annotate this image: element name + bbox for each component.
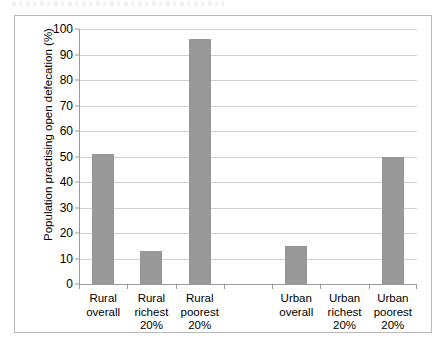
x-category-label-line: Rural — [176, 292, 224, 306]
x-category-label-line: 20% — [176, 319, 224, 333]
y-tick-label-100: 100 — [53, 23, 73, 35]
x-category-6: Urbanpoorest20% — [369, 284, 417, 346]
y-tick-label-90: 90 — [60, 49, 73, 61]
y-tick-label-50: 50 — [60, 151, 73, 163]
y-tick-label-0: 0 — [66, 278, 73, 290]
x-tick-mark — [369, 284, 370, 289]
x-category-2: Ruralpoorest20% — [176, 284, 224, 346]
x-category-label-line: richest — [127, 306, 175, 320]
bar-slot-1 — [127, 29, 175, 284]
x-category-label-line: Urban — [272, 292, 320, 306]
x-tick-mark — [224, 284, 225, 289]
x-tick-mark-end — [416, 284, 417, 289]
x-category-label-line: poorest — [176, 306, 224, 320]
bar-slot-2 — [176, 29, 224, 284]
chart-frame: Population practising open defecation (%… — [14, 15, 432, 333]
bar — [92, 154, 114, 284]
y-tick-label-80: 80 — [60, 74, 73, 86]
x-category-label-line: 20% — [369, 319, 417, 333]
x-category-5: Urbanrichest20% — [320, 284, 368, 346]
y-tick-label-10: 10 — [60, 253, 73, 265]
x-category-1: Ruralrichest20% — [127, 284, 175, 346]
x-category-label-line: Urban — [369, 292, 417, 306]
x-tick-mark — [272, 284, 273, 289]
x-category-0: Ruraloverall — [79, 284, 127, 346]
x-tick-mark — [127, 284, 128, 289]
y-tick-label-60: 60 — [60, 125, 73, 137]
y-tick-label-40: 40 — [60, 176, 73, 188]
x-category-label-line: overall — [79, 306, 127, 320]
y-tick-label-30: 30 — [60, 202, 73, 214]
bar — [140, 251, 162, 284]
x-category-label-line: 20% — [320, 319, 368, 333]
x-category-3 — [224, 284, 272, 346]
x-category-label-line: Rural — [127, 292, 175, 306]
scan-artifact-top-edge — [12, 1, 224, 6]
bar-slot-0 — [79, 29, 127, 284]
x-tick-mark — [79, 284, 80, 289]
x-tick-mark — [176, 284, 177, 289]
bar-slot-5 — [320, 29, 368, 284]
bar-slot-6 — [369, 29, 417, 284]
x-tick-mark — [320, 284, 321, 289]
y-axis-title: Population practising open defecation (%… — [42, 10, 55, 260]
bar-series — [79, 29, 417, 284]
x-category-label-line: richest — [320, 306, 368, 320]
y-tick-label-20: 20 — [60, 227, 73, 239]
bar-slot-3 — [224, 29, 272, 284]
bar — [382, 157, 404, 285]
x-category-label-line: overall — [272, 306, 320, 320]
bar — [189, 39, 211, 284]
x-category-label-line: Rural — [79, 292, 127, 306]
x-category-label-line: poorest — [369, 306, 417, 320]
y-tick-label-70: 70 — [60, 100, 73, 112]
x-axis-categories: RuraloverallRuralrichest20%Ruralpoorest2… — [79, 284, 417, 346]
bar-slot-4 — [272, 29, 320, 284]
plot-area: 1009080706050403020100 — [79, 29, 417, 284]
x-category-4: Urbanoverall — [272, 284, 320, 346]
bar — [285, 246, 307, 284]
x-category-label-line: 20% — [127, 319, 175, 333]
x-category-label-line: Urban — [320, 292, 368, 306]
